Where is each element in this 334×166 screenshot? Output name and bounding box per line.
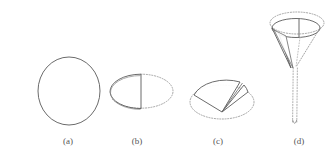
figure-container: (a) (b) (c) (d) [0, 0, 334, 166]
panel-b-half-disc [110, 74, 173, 109]
circle-outline [38, 57, 100, 125]
figure-caption [0, 159, 334, 166]
standing-half-disc-outline [110, 74, 141, 108]
panel-label-c: (c) [198, 136, 238, 146]
cone-flap-inner [274, 30, 293, 68]
fold-thickness-edge [110, 76, 140, 110]
panel-label-a: (a) [48, 136, 88, 146]
panel-a-circle [38, 57, 100, 125]
tail-right-dotted [297, 68, 298, 122]
base-ellipse-dotted-right [141, 74, 173, 108]
panel-c-sector [190, 80, 254, 119]
panel-label-d: (d) [279, 136, 319, 146]
tail-left-dotted [293, 68, 294, 122]
panel-d-cone-funnel [270, 12, 324, 123]
panel-label-b: (b) [117, 136, 157, 146]
cone-wall-inner-dotted [296, 37, 300, 67]
tail-tip [293, 120, 297, 123]
